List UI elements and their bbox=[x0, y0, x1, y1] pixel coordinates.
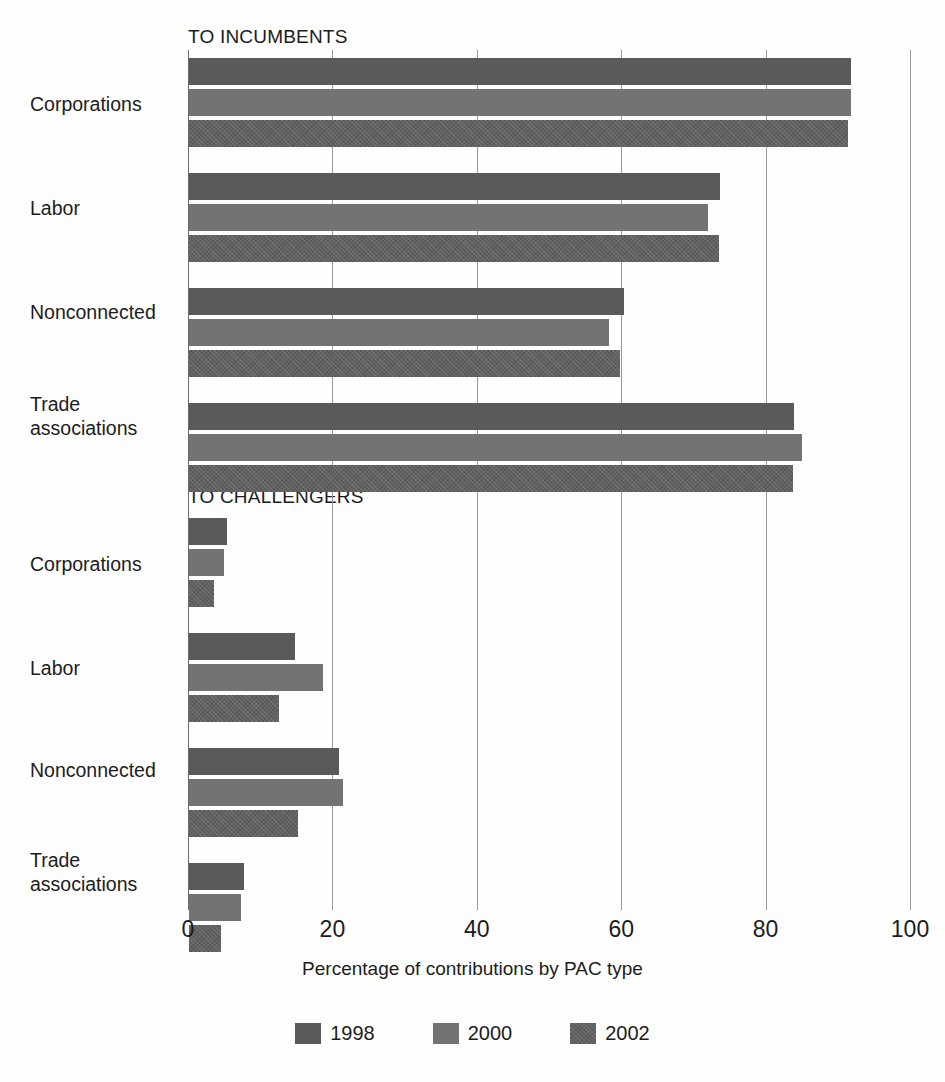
category-label-corporations-challengers: Corporations bbox=[30, 552, 180, 576]
bar bbox=[189, 235, 719, 262]
gridline-100 bbox=[910, 50, 911, 910]
category-label-nonconnected-challengers: Nonconnected bbox=[30, 758, 180, 782]
chart-legend: 199820002002 bbox=[0, 1022, 945, 1045]
bar bbox=[189, 894, 241, 921]
legend-swatch-icon bbox=[295, 1023, 321, 1044]
bar bbox=[189, 350, 620, 377]
category-label-trade-incumbents: Trade associations bbox=[30, 392, 180, 440]
legend-item-2000[interactable]: 2000 bbox=[433, 1022, 513, 1045]
x-tick-80: 80 bbox=[753, 916, 779, 943]
bar bbox=[189, 465, 793, 492]
bar bbox=[189, 518, 227, 545]
legend-label: 1998 bbox=[330, 1022, 375, 1045]
bar bbox=[189, 664, 323, 691]
x-tick-0: 0 bbox=[182, 916, 195, 943]
plot-area bbox=[188, 50, 910, 910]
legend-item-1998[interactable]: 1998 bbox=[295, 1022, 375, 1045]
legend-swatch-icon bbox=[570, 1023, 596, 1044]
bar bbox=[189, 319, 609, 346]
legend-label: 2000 bbox=[468, 1022, 513, 1045]
legend-label: 2002 bbox=[605, 1022, 650, 1045]
category-label-corporations-incumbents: Corporations bbox=[30, 92, 180, 116]
bar bbox=[189, 695, 279, 722]
x-tick-60: 60 bbox=[608, 916, 634, 943]
trade-label-line2: associations bbox=[30, 416, 180, 440]
legend-item-2002[interactable]: 2002 bbox=[570, 1022, 650, 1045]
bar bbox=[189, 288, 624, 315]
bar bbox=[189, 863, 244, 890]
x-tick-40: 40 bbox=[464, 916, 490, 943]
chart-page: TO INCUMBENTS TO CHALLENGERS Corporation… bbox=[0, 0, 945, 1082]
bar bbox=[189, 58, 851, 85]
section-heading-incumbents: TO INCUMBENTS bbox=[188, 26, 348, 48]
legend-swatch-icon bbox=[433, 1023, 459, 1044]
category-label-labor-incumbents: Labor bbox=[30, 196, 180, 220]
bar bbox=[189, 89, 851, 116]
x-axis-title: Percentage of contributions by PAC type bbox=[0, 958, 945, 980]
category-label-nonconnected-incumbents: Nonconnected bbox=[30, 300, 180, 324]
bar bbox=[189, 173, 720, 200]
category-label-trade-challengers: Trade associations bbox=[30, 848, 180, 896]
x-tick-100: 100 bbox=[891, 916, 929, 943]
bar bbox=[189, 549, 224, 576]
category-label-labor-challengers: Labor bbox=[30, 656, 180, 680]
bar bbox=[189, 403, 794, 430]
bar bbox=[189, 580, 214, 607]
bar bbox=[189, 633, 295, 660]
trade-label-line1: Trade bbox=[30, 392, 180, 416]
bar bbox=[189, 434, 802, 461]
x-tick-20: 20 bbox=[320, 916, 346, 943]
bar bbox=[189, 779, 343, 806]
trade-label-line2: associations bbox=[30, 872, 180, 896]
bar bbox=[189, 120, 848, 147]
bar bbox=[189, 748, 339, 775]
trade-label-line1: Trade bbox=[30, 848, 180, 872]
bar bbox=[189, 204, 708, 231]
bar bbox=[189, 810, 298, 837]
